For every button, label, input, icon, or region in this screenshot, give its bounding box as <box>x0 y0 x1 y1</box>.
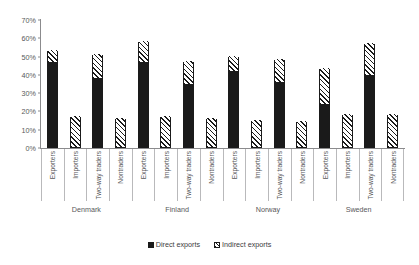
x-axis-group-label-sweden: Sweden <box>313 205 404 214</box>
bar-segment-indirect-exports <box>275 59 284 83</box>
label-separator <box>41 149 42 201</box>
chart-legend: Direct exportsIndirect exports <box>0 240 419 249</box>
bar-segment-direct-exports <box>365 76 374 147</box>
bar-sweden-two-way-traders <box>364 44 375 148</box>
bar-segment-indirect-exports <box>365 43 374 76</box>
bar-denmark-nontraders <box>115 119 126 148</box>
bar-norway-importers <box>251 121 262 148</box>
y-axis-tick-label: 50% <box>22 52 36 61</box>
legend-swatch-icon <box>214 242 220 248</box>
x-axis-category-label: Two-way traders <box>276 151 283 199</box>
x-axis-group-label-norway: Norway <box>223 205 314 214</box>
y-axis-tick-label: 60% <box>22 34 36 43</box>
x-axis-category-label: Nontraders <box>389 151 396 184</box>
bar-segment-direct-exports <box>93 79 102 147</box>
x-axis-label-cell: Two-way traders <box>268 149 291 205</box>
bar-finland-nontraders <box>206 119 217 148</box>
bar-segment-indirect-exports <box>252 120 261 147</box>
label-separator <box>200 149 201 201</box>
x-axis-category-label: Importers <box>72 151 79 179</box>
label-separator <box>245 149 246 201</box>
x-axis-group-labels: DenmarkFinlandNorwaySweden <box>41 205 404 221</box>
label-separator <box>291 149 292 201</box>
bar-sweden-exporters <box>319 69 330 148</box>
x-axis-category-label: Nontraders <box>117 151 124 184</box>
bar-segment-indirect-exports <box>184 61 193 85</box>
bar-segment-direct-exports <box>275 83 284 147</box>
bar-norway-two-way-traders <box>274 60 285 148</box>
x-axis-label-cell: Exporters <box>41 149 64 205</box>
label-separator <box>177 149 178 201</box>
label-separator <box>64 149 65 201</box>
label-separator <box>268 149 269 201</box>
bar-denmark-two-way-traders <box>92 55 103 148</box>
label-separator <box>109 149 110 201</box>
bar-segment-indirect-exports <box>207 118 216 147</box>
bar-segment-direct-exports <box>184 85 193 147</box>
stacked-bar-chart: 0%10%20%30%40%50%60%70% ExportersImporte… <box>0 0 419 265</box>
x-axis-category-labels: ExportersImportersTwo-way tradersNontrad… <box>41 149 404 205</box>
bar-segment-indirect-exports <box>161 116 170 147</box>
label-separator <box>132 149 133 201</box>
legend-label: Direct exports <box>156 240 200 249</box>
bar-segment-indirect-exports <box>388 114 397 147</box>
x-axis-category-label: Importers <box>162 151 169 179</box>
x-axis-category-label: Nontraders <box>208 151 215 184</box>
x-axis-label-cell: Two-way traders <box>86 149 109 205</box>
bar-segment-indirect-exports <box>343 114 352 147</box>
label-separator <box>336 149 337 201</box>
y-axis-tick-label: 30% <box>22 89 36 98</box>
bar-segment-direct-exports <box>320 105 329 147</box>
label-separator <box>359 149 360 201</box>
x-axis-label-cell: Exporters <box>313 149 336 205</box>
label-separator <box>86 149 87 201</box>
label-separator <box>403 149 404 201</box>
bars-layer <box>41 20 404 148</box>
x-axis-label-cell: Exporters <box>132 149 155 205</box>
bar-segment-indirect-exports <box>139 41 148 63</box>
x-axis-label-cell: Exporters <box>223 149 246 205</box>
x-axis-category-label: Exporters <box>321 151 328 179</box>
bar-norway-exporters <box>228 57 239 148</box>
x-axis-group-label-denmark: Denmark <box>41 205 132 214</box>
x-axis-label-cell: Two-way traders <box>359 149 382 205</box>
x-axis-category-label: Exporters <box>49 151 56 179</box>
y-axis-tick-label: 10% <box>22 125 36 134</box>
bar-segment-direct-exports <box>48 63 57 147</box>
bar-denmark-exporters <box>47 51 58 148</box>
x-axis-label-cell: Nontraders <box>109 149 132 205</box>
legend-item-indirect-exports[interactable]: Indirect exports <box>214 240 271 249</box>
legend-item-direct-exports[interactable]: Direct exports <box>148 240 200 249</box>
x-axis-category-label: Importers <box>253 151 260 179</box>
y-axis-tick-label: 0% <box>26 144 36 153</box>
bar-sweden-importers <box>342 115 353 148</box>
legend-label: Indirect exports <box>222 240 271 249</box>
plot-area: 0%10%20%30%40%50%60%70% <box>41 20 404 148</box>
x-axis-category-label: Two-way traders <box>185 151 192 199</box>
x-axis-label-cell: Importers <box>245 149 268 205</box>
label-separator <box>381 149 382 201</box>
bar-denmark-importers <box>70 117 81 148</box>
y-axis-tick-label: 70% <box>22 16 36 25</box>
x-axis-category-label: Two-way traders <box>366 151 373 199</box>
bar-sweden-nontraders <box>387 115 398 148</box>
label-separator <box>154 149 155 201</box>
x-axis-label-cell: Importers <box>64 149 87 205</box>
x-axis-label-cell: Nontraders <box>200 149 223 205</box>
x-axis-category-label: Exporters <box>140 151 147 179</box>
x-axis-label-cell: Nontraders <box>381 149 404 205</box>
bar-segment-direct-exports <box>139 63 148 147</box>
label-separator <box>223 149 224 201</box>
x-axis-category-label: Nontraders <box>298 151 305 184</box>
legend-swatch-icon <box>148 242 154 248</box>
bar-finland-exporters <box>138 42 149 148</box>
x-axis-label-cell: Importers <box>336 149 359 205</box>
x-axis-label-cell: Two-way traders <box>177 149 200 205</box>
bar-finland-two-way-traders <box>183 62 194 148</box>
y-axis-tick-label: 20% <box>22 107 36 116</box>
x-axis-category-label: Exporters <box>230 151 237 179</box>
bar-segment-indirect-exports <box>229 56 238 72</box>
x-axis-label-cell: Nontraders <box>291 149 314 205</box>
bar-segment-indirect-exports <box>320 68 329 105</box>
x-axis-category-label: Two-way traders <box>94 151 101 199</box>
